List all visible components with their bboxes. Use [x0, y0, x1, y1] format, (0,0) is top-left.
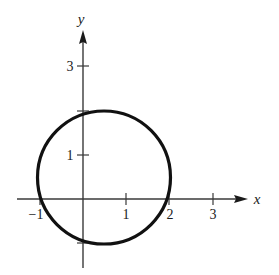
- x-tick-label: −1: [29, 207, 44, 222]
- x-tick-label: 1: [123, 207, 130, 222]
- y-tick-label: 3: [67, 59, 74, 74]
- circle-graph: −1 1 2 3 x 3 1 y: [0, 0, 279, 275]
- y-tick-label: 1: [67, 148, 74, 163]
- x-axis-arrow-icon: [234, 195, 248, 203]
- circle-curve: [38, 111, 171, 244]
- y-axis: 3 1 y: [67, 11, 90, 268]
- y-axis-label: y: [76, 11, 85, 27]
- y-axis-arrow-icon: [79, 30, 87, 44]
- x-tick-label: 2: [167, 207, 174, 222]
- x-axis: −1 1 2 3 x: [17, 191, 261, 222]
- x-axis-label: x: [253, 191, 261, 207]
- x-tick-label: 3: [210, 207, 217, 222]
